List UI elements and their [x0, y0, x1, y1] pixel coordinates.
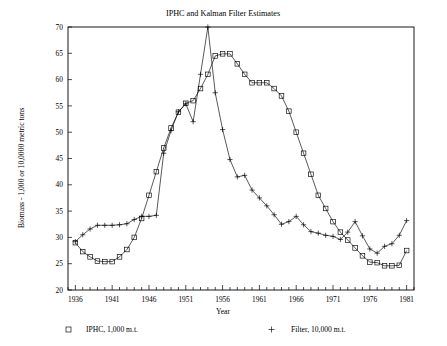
plus-marker-icon — [154, 213, 159, 218]
plus-marker-icon — [161, 151, 166, 156]
y-tick-label: 25 — [56, 259, 64, 268]
x-tick-label: 1976 — [362, 295, 377, 304]
plot-frame — [68, 27, 414, 290]
plus-marker-icon — [286, 219, 291, 224]
legend-label-filter: Filter, 10,000 m.t. — [291, 325, 346, 334]
plus-marker-icon — [242, 173, 247, 178]
plus-marker-icon — [95, 223, 100, 228]
y-tick-label: 60 — [56, 75, 64, 84]
square-marker-icon — [66, 327, 71, 332]
plus-marker-icon — [220, 127, 225, 132]
series-line — [75, 27, 406, 253]
series-line — [75, 54, 406, 266]
x-tick-label: 1946 — [142, 295, 157, 304]
y-tick-label: 35 — [56, 207, 64, 216]
plus-marker-icon — [124, 221, 129, 226]
series-filter — [73, 24, 409, 255]
x-tick-label: 1941 — [105, 295, 120, 304]
plus-marker-icon — [146, 214, 151, 219]
x-tick-label: 1936 — [68, 295, 83, 304]
chart-figure: IPHC and Kalman Filter Estimates Biomass… — [0, 0, 447, 346]
y-tick-label: 30 — [56, 233, 64, 242]
plus-marker-icon — [198, 72, 203, 77]
y-tick-label: 55 — [56, 102, 64, 111]
data-series-layer — [73, 24, 409, 268]
plus-marker-icon — [227, 157, 232, 162]
y-tick-label: 65 — [56, 49, 64, 58]
y-axis-ticks: 2025303540455055606570 — [56, 23, 72, 295]
x-axis-ticks: 1936194119461951195619611966197119761981 — [68, 285, 414, 304]
plus-marker-icon — [269, 327, 275, 333]
plus-marker-icon — [316, 231, 321, 236]
x-tick-label: 1981 — [399, 295, 414, 304]
plus-marker-icon — [102, 223, 107, 228]
plus-marker-icon — [132, 217, 137, 222]
y-tick-label: 40 — [56, 180, 64, 189]
x-tick-label: 1971 — [326, 295, 341, 304]
legend-entry-filter: Filter, 10,000 m.t. — [269, 325, 346, 334]
series-iphc — [73, 52, 409, 269]
y-axis-label: Biomass - 1,000 or 10,0000 metric tons — [17, 108, 26, 228]
plus-marker-icon — [404, 218, 409, 223]
plus-marker-icon — [323, 233, 328, 238]
chart-title: IPHC and Kalman Filter Estimates — [166, 9, 280, 18]
plus-marker-icon — [191, 119, 196, 124]
y-tick-label: 70 — [56, 23, 64, 32]
x-tick-label: 1961 — [252, 295, 267, 304]
chart-legend: IPHC, 1,000 m.t. Filter, 10,000 m.t. — [66, 325, 346, 334]
plus-marker-icon — [110, 223, 115, 228]
plus-marker-icon — [139, 214, 144, 219]
legend-label-iphc: IPHC, 1,000 m.t. — [86, 325, 138, 334]
legend-entry-iphc: IPHC, 1,000 m.t. — [66, 325, 138, 334]
x-axis-label: Year — [216, 307, 230, 316]
plus-marker-icon — [213, 90, 218, 95]
plus-marker-icon — [205, 24, 210, 29]
y-tick-label: 45 — [56, 154, 64, 163]
plus-marker-icon — [235, 174, 240, 179]
plus-marker-icon — [353, 219, 358, 224]
y-tick-label: 50 — [56, 128, 64, 137]
plus-marker-icon — [330, 234, 335, 239]
plus-marker-icon — [360, 233, 365, 238]
biomass-line-chart: IPHC and Kalman Filter Estimates Biomass… — [0, 0, 447, 346]
x-tick-label: 1951 — [178, 295, 193, 304]
plus-marker-icon — [367, 246, 372, 251]
x-tick-label: 1956 — [215, 295, 230, 304]
y-tick-label: 20 — [56, 286, 64, 295]
x-tick-label: 1966 — [289, 295, 304, 304]
plus-marker-icon — [117, 222, 122, 227]
